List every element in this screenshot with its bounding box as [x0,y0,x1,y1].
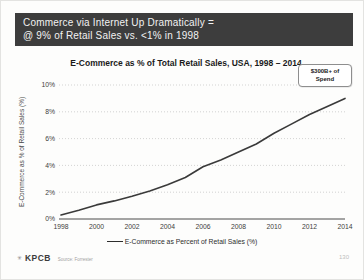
spend-callout-line2: Spend [301,76,349,84]
slide: Commerce via Internet Up Dramatically = … [0,0,364,280]
x-tick-label: 2002 [124,223,139,230]
footer: ✳ KPCB Source: Forrester [17,253,93,263]
kpcb-logo-text: KPCB [25,253,51,263]
legend-label: E-Commerce as Percent of Retail Sales (%… [125,238,258,245]
x-tick-label: 1998 [53,223,68,230]
y-tick-label: 0% [45,215,55,222]
x-tick-label: 2014 [337,223,352,230]
ecommerce-line [61,98,345,215]
y-tick-label: 6% [45,135,55,142]
source-note: Source: Forrester [58,257,93,262]
x-tick-label: 2006 [195,223,210,230]
x-tick-label: 2000 [89,223,104,230]
x-tick-label: 2004 [160,223,175,230]
page-number: 130 [339,254,349,260]
x-tick-label: 2010 [266,223,281,230]
y-tick-label: 10% [41,81,55,88]
x-tick-label: 2008 [231,223,246,230]
kpcb-logo-icon: ✳ [17,254,22,261]
y-tick-label: 8% [45,108,55,115]
spend-callout: $300B+ of Spend [298,64,352,87]
spend-callout-line1: $300B+ of [301,68,349,76]
chart-legend: E-Commerce as Percent of Retail Sales (%… [1,238,363,245]
x-tick-label: 2012 [302,223,317,230]
y-tick-label: 4% [45,162,55,169]
y-tick-label: 2% [45,189,55,196]
legend-line-swatch [107,241,123,242]
